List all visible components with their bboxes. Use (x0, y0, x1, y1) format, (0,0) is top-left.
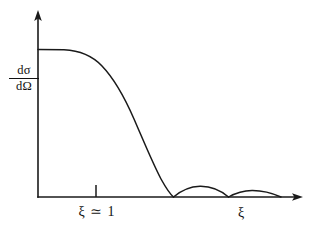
y-axis-label: dσ dΩ (9, 64, 39, 92)
y-axis-label-denominator: dΩ (9, 79, 39, 93)
y-axis-label-numerator: dσ (9, 64, 39, 79)
y-axis-group (34, 10, 42, 197)
side-lobe-1-curve (174, 186, 229, 197)
side-lobe-2-curve (229, 190, 282, 197)
figure-container: dσ dΩ ξ ≃ 1 ξ (0, 0, 309, 240)
x-axis-label: ξ (228, 206, 254, 220)
x-axis-tick-label: ξ ≃ 1 (64, 205, 130, 219)
main-lobe-curve (38, 50, 174, 198)
cross-section-plot (0, 0, 309, 240)
